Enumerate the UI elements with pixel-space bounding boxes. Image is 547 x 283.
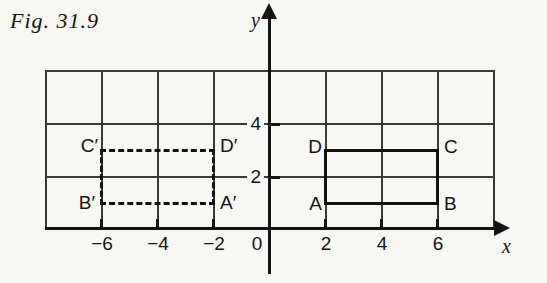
y-axis-arrowhead bbox=[261, 3, 277, 19]
vertex-label-c-prime: C′ bbox=[81, 136, 98, 156]
x-tick-neg2 bbox=[212, 219, 215, 227]
figure-page: Fig. 31.9 A B C D A′ B′ C′ D′ −6 −4 −2 0… bbox=[0, 0, 547, 283]
x-tick-label-neg2: −2 bbox=[203, 234, 225, 254]
x-tick-label-neg4: −4 bbox=[147, 234, 169, 254]
y-axis bbox=[268, 16, 271, 274]
x-axis bbox=[45, 227, 495, 230]
x-tick-label-2: 2 bbox=[321, 234, 332, 254]
vertex-label-b: B bbox=[444, 194, 457, 214]
y-tick-2 bbox=[270, 176, 280, 179]
x-axis-label: x bbox=[502, 236, 511, 256]
vertex-label-d-prime: D′ bbox=[220, 136, 237, 156]
vertex-label-a: A bbox=[309, 194, 322, 214]
figure-caption: Fig. 31.9 bbox=[10, 8, 99, 34]
vertex-label-b-prime: B′ bbox=[79, 193, 95, 213]
y-tick-label-4: 4 bbox=[247, 114, 264, 134]
x-tick-label-neg6: −6 bbox=[91, 234, 113, 254]
x-tick-label-6: 6 bbox=[433, 234, 444, 254]
vertex-label-d: D bbox=[308, 137, 322, 157]
y-axis-label: y bbox=[251, 10, 260, 30]
x-tick-4 bbox=[380, 219, 383, 227]
x-tick-label-4: 4 bbox=[377, 234, 388, 254]
x-tick-6 bbox=[436, 219, 439, 227]
origin-label: 0 bbox=[252, 234, 263, 254]
x-tick-neg4 bbox=[156, 219, 159, 227]
vertex-label-a-prime: A′ bbox=[220, 193, 236, 213]
x-tick-neg6 bbox=[100, 219, 103, 227]
y-tick-label-2: 2 bbox=[247, 167, 264, 187]
rectangle-abcd bbox=[324, 149, 439, 205]
x-tick-2 bbox=[324, 219, 327, 227]
rectangle-abcd-prime bbox=[100, 149, 215, 205]
x-axis-arrowhead bbox=[494, 220, 510, 236]
y-tick-4 bbox=[270, 123, 280, 126]
vertex-label-c: C bbox=[444, 137, 458, 157]
